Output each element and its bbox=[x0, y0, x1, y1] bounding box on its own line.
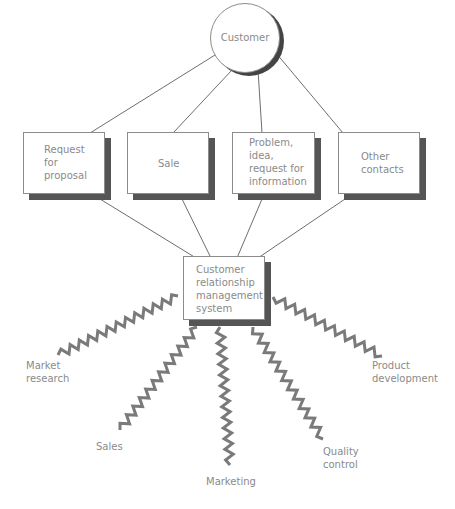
channel-problem-box: Problem, idea, request for information bbox=[232, 132, 315, 194]
channel-request-label: Request for proposal bbox=[44, 143, 87, 182]
output-marketing-label: Marketing bbox=[206, 475, 256, 488]
output-sales-label: Sales bbox=[96, 440, 123, 453]
connector-other-crm bbox=[258, 199, 345, 258]
zigzag-marketing bbox=[216, 327, 233, 465]
connector-customer-problem bbox=[258, 70, 262, 133]
crm-system-label: Customer relationship management system bbox=[196, 263, 263, 315]
zigzag-product-development bbox=[273, 297, 382, 357]
connector-layer bbox=[0, 0, 455, 509]
connector-customer-request bbox=[90, 55, 215, 133]
channel-sale-label: Sale bbox=[158, 157, 179, 170]
zigzag-sales bbox=[120, 327, 197, 430]
customer-label: Customer bbox=[211, 32, 279, 43]
channel-sale-box: Sale bbox=[127, 132, 209, 194]
connector-customer-sale bbox=[173, 70, 232, 133]
connector-sale-crm bbox=[182, 199, 211, 258]
connector-problem-crm bbox=[237, 199, 262, 258]
output-quality-control-label: Quality control bbox=[323, 445, 359, 471]
zigzag-market-research bbox=[58, 295, 178, 355]
output-product-development-label: Product development bbox=[372, 359, 438, 385]
zigzag-quality-control bbox=[253, 327, 324, 439]
channel-other-box: Other contacts bbox=[338, 132, 420, 194]
crm-diagram: Customer Request for proposal Sale Probl… bbox=[0, 0, 455, 509]
connector-request-crm bbox=[100, 199, 196, 258]
channel-request-box: Request for proposal bbox=[23, 132, 105, 194]
customer-node: Customer bbox=[210, 3, 280, 73]
channel-other-label: Other contacts bbox=[361, 150, 404, 176]
channel-problem-label: Problem, idea, request for information bbox=[249, 136, 307, 188]
output-market-research-label: Market research bbox=[26, 359, 69, 385]
connector-customer-other bbox=[276, 53, 343, 133]
crm-system-box: Customer relationship management system bbox=[183, 256, 265, 320]
